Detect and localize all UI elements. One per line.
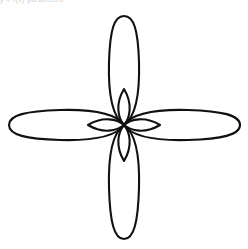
four-petal-curve-figure: [0, 0, 248, 249]
bottom-lobe-path: [109, 125, 139, 239]
top-lobe-path: [109, 16, 139, 125]
left-lobe-path: [9, 110, 124, 140]
figure-canvas: y = f(x) parametric: [0, 0, 248, 249]
right-lobe-inner-petal-path: [124, 119, 160, 130]
right-lobe-path: [124, 110, 240, 140]
left-lobe-inner-petal-path: [88, 119, 124, 130]
